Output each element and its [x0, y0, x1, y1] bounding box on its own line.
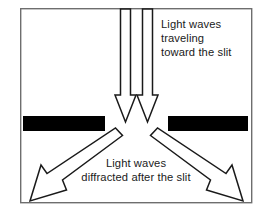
incoming-label-line-3: toward the slit — [161, 46, 232, 58]
diffraction-diagram: Light waves traveling toward the slit Li… — [0, 0, 267, 215]
right-barrier — [168, 116, 248, 131]
diffracted-label-line-1: Light waves — [106, 157, 166, 169]
left-barrier — [23, 116, 105, 131]
diagram-canvas: Light waves traveling toward the slit Li… — [0, 0, 267, 215]
incoming-label-line-2: traveling — [161, 32, 204, 44]
diffracted-label-line-2: diffracted after the slit — [81, 171, 191, 183]
incoming-label-line-1: Light waves — [161, 18, 221, 30]
